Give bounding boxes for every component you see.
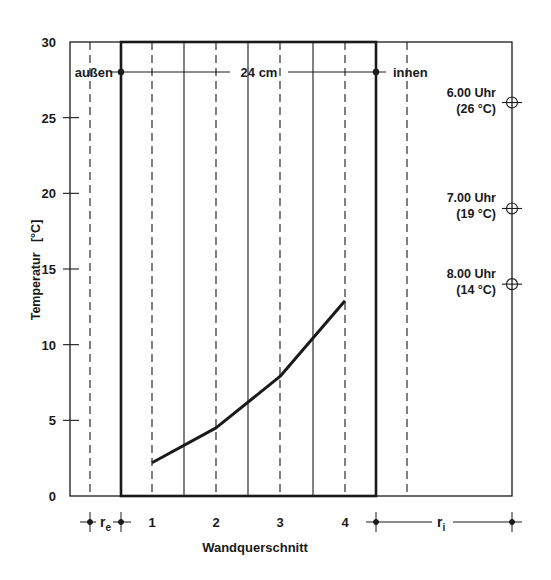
x-tick-label: 4 — [341, 515, 349, 530]
x-tick-label: 2 — [212, 515, 219, 530]
x-tick-label: 3 — [276, 515, 283, 530]
x-axis: 1234 — [148, 515, 349, 530]
y-tick-label: 25 — [42, 111, 56, 126]
r-e-label: re — [100, 514, 111, 533]
y-axis: 051015202530 — [42, 35, 79, 504]
svg-text:7.00 Uhr: 7.00 Uhr — [447, 191, 496, 205]
y-tick-label: 10 — [42, 338, 56, 353]
svg-text:6.00 Uhr: 6.00 Uhr — [447, 86, 496, 100]
outside-label: außen — [75, 65, 113, 80]
temperature-wall-chart: 051015202530 24 cm außen innen 6.00 Uhr(… — [0, 0, 551, 580]
svg-text:8.00 Uhr: 8.00 Uhr — [447, 267, 496, 281]
svg-text:(14 °C): (14 °C) — [456, 283, 496, 297]
inside-point — [373, 69, 379, 75]
y-axis-label: Temperatur [°C] — [29, 220, 43, 321]
r-i-label: ri — [437, 514, 445, 533]
y-tick-label: 20 — [42, 186, 56, 201]
y-tick-label: 0 — [49, 489, 56, 504]
wall-thickness-label: 24 cm — [241, 65, 278, 80]
solid-layer-lines — [184, 42, 313, 496]
outside-point — [118, 69, 124, 75]
y-tick-label: 15 — [42, 262, 56, 277]
inside-label: innen — [393, 65, 428, 80]
x-tick-label: 1 — [148, 515, 155, 530]
time-markers: 6.00 Uhr(26 °C)7.00 Uhr(19 °C)8.00 Uhr(1… — [447, 86, 522, 298]
y-tick-label: 5 — [49, 413, 56, 428]
time-marker: 6.00 Uhr(26 °C) — [447, 86, 522, 116]
time-marker: 7.00 Uhr(19 °C) — [447, 191, 522, 221]
time-marker: 8.00 Uhr(14 °C) — [447, 267, 522, 297]
y-tick-label: 30 — [42, 35, 56, 50]
x-axis-label: Wandquerschnitt — [202, 540, 308, 555]
svg-text:(19 °C): (19 °C) — [456, 207, 496, 221]
svg-text:(26 °C): (26 °C) — [456, 102, 496, 116]
